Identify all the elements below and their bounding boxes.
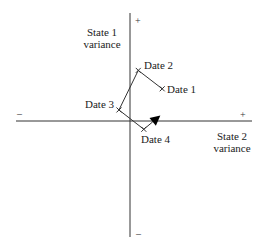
point-label-date1: Date 1 — [167, 83, 196, 95]
horizontal-axis-positive-sign: + — [240, 109, 246, 121]
point-label-date3: Date 3 — [85, 98, 114, 110]
vertical-axis-positive-sign: + — [135, 15, 141, 27]
marker-date3 — [116, 107, 121, 112]
vertical-axis-title-line2: variance — [76, 38, 128, 50]
marker-date2 — [136, 68, 141, 73]
variance-diagram — [0, 0, 265, 251]
point-label-date2: Date 2 — [144, 59, 173, 71]
trajectory-path — [119, 70, 162, 129]
segment-date1-to-date2 — [138, 70, 162, 88]
point-label-date4: Date 4 — [141, 133, 170, 145]
vertical-axis-title-line1: State 1 — [76, 26, 128, 38]
horizontal-axis-title: State 2 variance — [206, 130, 258, 154]
segment-date3-to-date4 — [119, 110, 144, 129]
horizontal-axis-negative-sign: – — [17, 108, 22, 120]
horizontal-axis-title-line2: variance — [206, 142, 258, 154]
marker-date4 — [141, 127, 146, 132]
vertical-axis-negative-sign: – — [136, 228, 141, 240]
horizontal-axis-title-line1: State 2 — [206, 130, 258, 142]
vertical-axis-title: State 1 variance — [76, 26, 128, 50]
marker-date1 — [160, 86, 165, 91]
segment-date2-to-date3 — [119, 70, 138, 110]
